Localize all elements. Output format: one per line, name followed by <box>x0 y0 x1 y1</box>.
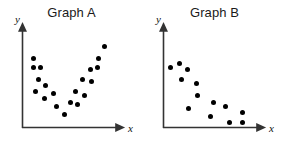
data-point <box>73 89 78 94</box>
data-point <box>31 56 36 61</box>
data-point <box>82 93 87 98</box>
data-point <box>51 91 56 96</box>
data-point <box>88 67 93 72</box>
graph-b-x-axis-label: x <box>269 122 274 134</box>
graph-b-axes <box>143 0 286 152</box>
graph-a-axes <box>0 0 143 152</box>
data-point <box>240 110 245 115</box>
data-point <box>33 89 38 94</box>
graph-b-panel: Graph B y x <box>143 0 286 152</box>
data-point <box>62 112 67 117</box>
graph-b-y-axis-label: y <box>156 13 161 25</box>
data-point <box>31 65 36 70</box>
data-point <box>227 120 232 125</box>
graph-a-x-axis-label: x <box>128 122 133 134</box>
data-point <box>240 120 245 125</box>
data-point <box>96 56 101 61</box>
scatter-plot-figure: Graph A y x Graph B <box>0 0 287 152</box>
data-point <box>75 102 80 107</box>
graph-a-y-axis-label: y <box>15 13 20 25</box>
data-point <box>194 81 199 86</box>
data-point <box>179 77 184 82</box>
graph-a-panel: Graph A y x <box>0 0 143 152</box>
